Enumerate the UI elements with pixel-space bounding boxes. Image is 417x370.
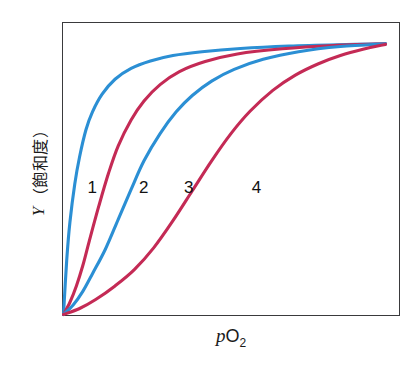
y-axis-unit-text: （飽和度） — [27, 122, 51, 205]
curve-4-path — [64, 44, 386, 314]
x-axis-oxygen-symbol: O — [225, 326, 239, 346]
y-axis-symbol: Y — [29, 204, 49, 216]
y-axis-label: Y（飽和度） — [26, 22, 52, 316]
curve-label-4: 4 — [252, 178, 261, 198]
curve-1-path — [64, 44, 386, 315]
x-axis-label: pO2 — [62, 325, 400, 350]
x-axis-pressure-symbol: p — [216, 325, 226, 346]
oxygen-binding-curve-figure: 1 2 3 4 Y（飽和度） pO2 — [0, 0, 417, 370]
curve-label-1: 1 — [87, 178, 96, 198]
x-axis-subscript: 2 — [239, 336, 246, 350]
curve-label-3: 3 — [184, 178, 193, 198]
curve-label-2: 2 — [139, 178, 148, 198]
curve-series-group — [64, 44, 386, 315]
curves-plot-area — [62, 22, 400, 316]
